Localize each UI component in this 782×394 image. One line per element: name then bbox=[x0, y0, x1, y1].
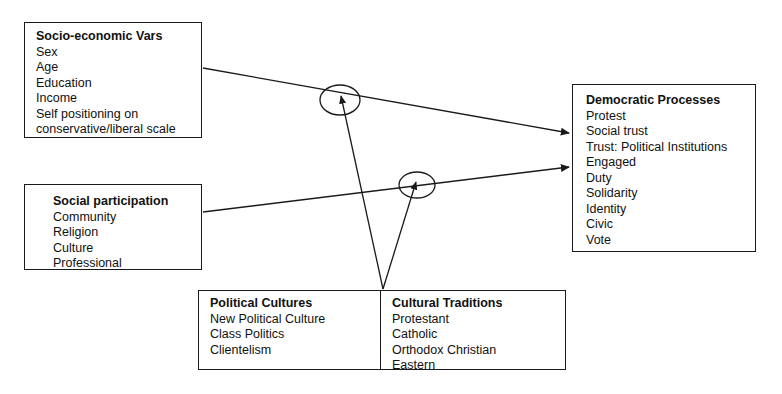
node-cultural-traditions[interactable]: Cultural Traditions Protestant Catholic … bbox=[381, 291, 565, 369]
node-political-cultures[interactable]: Political Cultures New Political Culture… bbox=[199, 291, 381, 369]
node-social-participation[interactable]: Social participation Community Religion … bbox=[24, 184, 202, 270]
node-item: Sex bbox=[36, 45, 201, 61]
node-title: Political Cultures bbox=[210, 296, 380, 312]
node-body: Political Cultures New Political Culture… bbox=[199, 291, 380, 362]
node-group-bottom: Political Cultures New Political Culture… bbox=[198, 290, 566, 370]
node-title: Social participation bbox=[53, 194, 201, 210]
node-item: Duty bbox=[586, 171, 755, 187]
node-item: Protestant bbox=[392, 312, 565, 328]
node-body: Socio-economic Vars Sex Age Education In… bbox=[25, 23, 201, 142]
node-item: Class Politics bbox=[210, 327, 380, 343]
node-body: Social participation Community Religion … bbox=[25, 185, 201, 276]
node-body: Cultural Traditions Protestant Catholic … bbox=[381, 291, 565, 378]
moderator-node-lower bbox=[399, 172, 435, 198]
node-item: Catholic bbox=[392, 327, 565, 343]
node-item: Religion bbox=[53, 225, 201, 241]
node-item: Self positioning on bbox=[36, 107, 201, 123]
node-socioeconomic-vars[interactable]: Socio-economic Vars Sex Age Education In… bbox=[24, 22, 202, 138]
diagram-canvas: Socio-economic Vars Sex Age Education In… bbox=[0, 0, 782, 394]
edge-social-participation-to-democratic bbox=[203, 167, 569, 212]
node-item: Education bbox=[36, 76, 201, 92]
node-item: Civic bbox=[586, 217, 755, 233]
node-body: Democratic Processes Protest Social trus… bbox=[573, 85, 755, 252]
node-item: Income bbox=[36, 91, 201, 107]
node-item: conservative/liberal scale bbox=[36, 122, 201, 138]
edge-cultures-to-moderator-upper bbox=[341, 96, 383, 289]
node-item: Professional bbox=[53, 256, 201, 272]
moderator-node-upper bbox=[320, 85, 360, 115]
node-item: Vote bbox=[586, 233, 755, 249]
edge-cultures-to-moderator-lower bbox=[383, 182, 416, 289]
node-item: Protest bbox=[586, 109, 755, 125]
node-item: Culture bbox=[53, 241, 201, 257]
node-item: Eastern bbox=[392, 358, 565, 374]
node-democratic-processes[interactable]: Democratic Processes Protest Social trus… bbox=[572, 84, 756, 252]
node-item: Clientelism bbox=[210, 343, 380, 359]
node-item: New Political Culture bbox=[210, 312, 380, 328]
node-item: Solidarity bbox=[586, 186, 755, 202]
node-item: Community bbox=[53, 210, 201, 226]
edge-socioeconomic-to-democratic bbox=[203, 68, 569, 133]
node-item: Social trust bbox=[586, 124, 755, 140]
node-title: Socio-economic Vars bbox=[36, 29, 201, 45]
node-item: Engaged bbox=[586, 155, 755, 171]
node-item: Trust: Political Institutions bbox=[586, 140, 755, 156]
node-item: Identity bbox=[586, 202, 755, 218]
node-title: Cultural Traditions bbox=[392, 296, 565, 312]
node-title: Democratic Processes bbox=[586, 93, 755, 109]
node-item: Age bbox=[36, 60, 201, 76]
node-item: Orthodox Christian bbox=[392, 343, 565, 359]
